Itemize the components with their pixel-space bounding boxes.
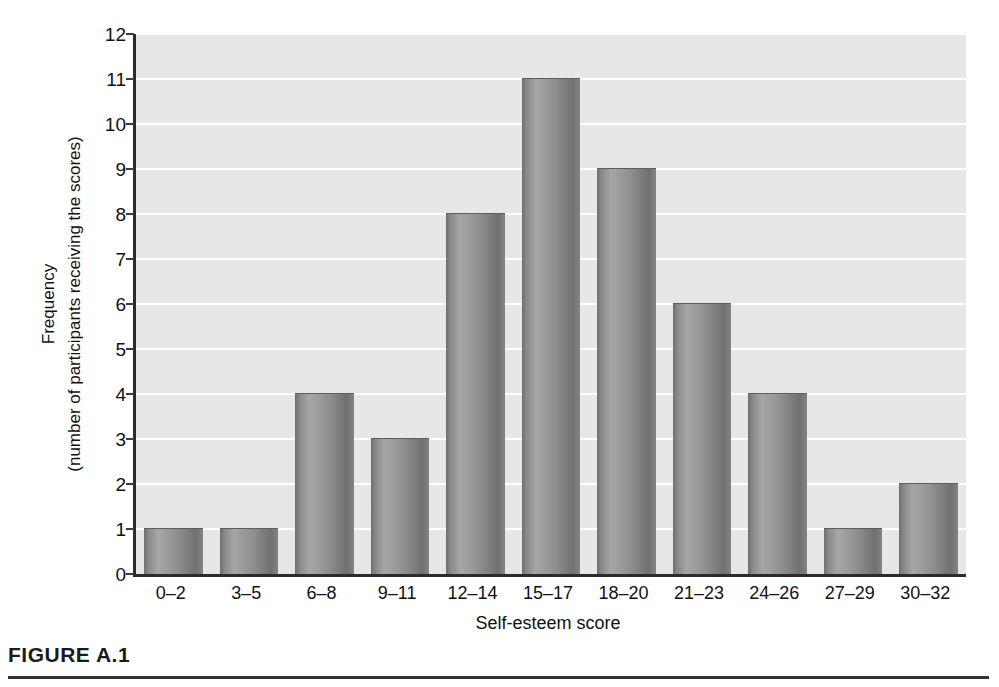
x-axis-tick-label: 12–14 <box>448 582 498 604</box>
bar <box>597 168 655 574</box>
y-axis-tick-label: 1 <box>115 520 126 539</box>
x-axis-title: Self-esteem score <box>133 612 963 634</box>
x-axis-tick-labels: 0–23–56–89–1112–1415–1718–2021–2324–2627… <box>133 582 963 610</box>
y-axis-tick-mark <box>126 438 134 440</box>
y-axis-tick-label: 9 <box>115 160 126 179</box>
y-axis-title-line1: Frequency <box>36 136 62 471</box>
y-axis-tick-mark <box>126 78 134 80</box>
y-axis-tick-label: 4 <box>115 385 126 404</box>
bar <box>824 528 882 574</box>
y-axis-tick-mark <box>126 168 134 170</box>
y-axis-tick-mark <box>126 483 134 485</box>
bar <box>673 303 731 574</box>
caption-divider <box>8 676 989 679</box>
y-axis-tick-mark <box>126 303 134 305</box>
bar <box>220 528 278 574</box>
y-axis-tick-label: 10 <box>105 115 126 134</box>
y-axis-tick-mark <box>126 123 134 125</box>
bar-series <box>136 34 966 574</box>
y-axis-tick-label: 12 <box>105 25 126 44</box>
y-axis-tick-label: 6 <box>115 295 126 314</box>
bar <box>295 393 353 574</box>
bar <box>144 528 202 574</box>
y-axis-tick-label: 11 <box>106 70 126 89</box>
y-axis-tick-label: 8 <box>115 205 126 224</box>
bar <box>371 438 429 574</box>
plot-area <box>133 34 966 577</box>
x-axis-tick-label: 27–29 <box>825 582 875 604</box>
y-axis-tick-label: 2 <box>115 475 126 494</box>
y-axis-title-line2: (number of participants receiving the sc… <box>62 136 88 471</box>
y-axis-tick-mark <box>126 258 134 260</box>
x-axis-tick-label: 18–20 <box>598 582 648 604</box>
y-axis-tick-mark <box>126 213 134 215</box>
x-axis-tick-label: 3–5 <box>231 582 261 604</box>
y-axis-tick-mark <box>126 573 134 575</box>
x-axis-tick-label: 9–11 <box>378 582 417 604</box>
y-axis-tick-label: 7 <box>115 250 126 269</box>
bar <box>446 213 504 574</box>
y-axis-tick-labels: 0123456789101112 <box>92 34 126 574</box>
y-axis-tick-label: 5 <box>115 340 126 359</box>
bar <box>748 393 806 574</box>
y-axis-tick-mark <box>126 348 134 350</box>
x-axis-tick-label: 15–17 <box>523 582 573 604</box>
figure-a1: Frequency (number of participants receiv… <box>0 0 999 687</box>
bar <box>899 483 957 574</box>
x-axis-tick-label: 30–32 <box>900 582 950 604</box>
y-axis-tick-mark <box>126 33 134 35</box>
x-axis-tick-label: 24–26 <box>749 582 799 604</box>
y-axis-tick-mark <box>126 393 134 395</box>
figure-caption: FIGURE A.1 <box>8 643 130 667</box>
bar <box>522 78 580 574</box>
x-axis-tick-label: 0–2 <box>156 582 186 604</box>
x-axis-tick-label: 6–8 <box>307 582 337 604</box>
y-axis-tick-mark <box>126 528 134 530</box>
y-axis-tick-label: 0 <box>115 565 126 584</box>
y-axis-title: Frequency (number of participants receiv… <box>34 34 90 574</box>
x-axis-tick-label: 21–23 <box>674 582 724 604</box>
y-axis-tick-label: 3 <box>115 430 126 449</box>
